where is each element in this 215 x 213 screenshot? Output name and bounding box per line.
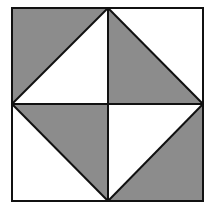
pinwheel-diagram bbox=[0, 0, 215, 213]
